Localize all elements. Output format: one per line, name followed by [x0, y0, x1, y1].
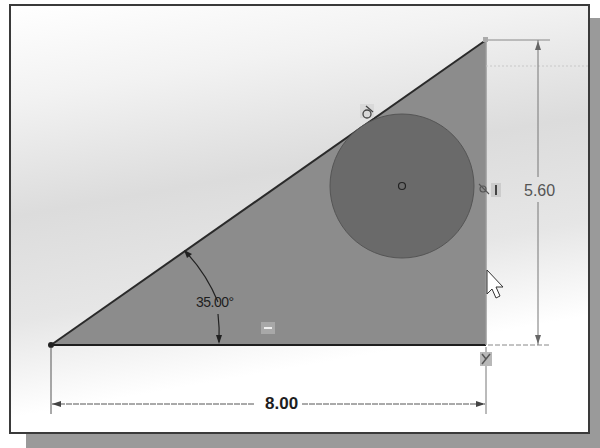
- horizontal-dimension-value[interactable]: 8.00: [265, 394, 298, 414]
- sketch-canvas[interactable]: [11, 6, 590, 434]
- angle-dimension-value[interactable]: 35.00°: [196, 294, 234, 310]
- vertical-dimension-value[interactable]: 5.60: [524, 182, 555, 200]
- coincident-relation-icon[interactable]: [480, 352, 492, 366]
- circle-entity[interactable]: [330, 114, 474, 258]
- vertex-top[interactable]: [483, 37, 488, 42]
- horizontal-relation-icon[interactable]: [261, 322, 275, 334]
- tangent-relation-icon[interactable]: [360, 104, 374, 118]
- sketch-viewport[interactable]: 8.00 5.60 35.00°: [9, 4, 590, 434]
- arrow-cursor-icon: [487, 270, 503, 298]
